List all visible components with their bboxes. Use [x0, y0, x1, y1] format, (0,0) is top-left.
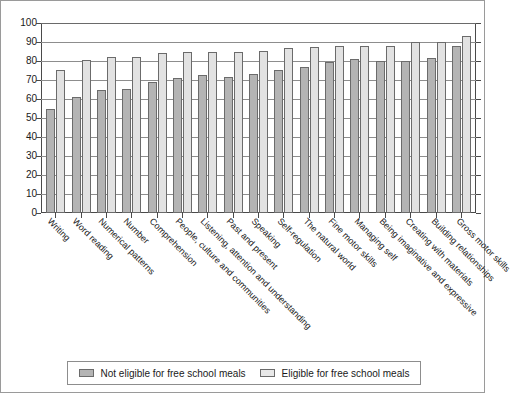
y-tick-right-70 — [476, 80, 481, 81]
bar-eligible[interactable] — [107, 57, 116, 213]
bar-not-eligible[interactable] — [401, 61, 410, 213]
bar-eligible[interactable] — [360, 46, 369, 213]
y-tick-right-10 — [476, 194, 481, 195]
bar-group — [195, 23, 220, 213]
bar-eligible[interactable] — [208, 52, 217, 214]
bar-not-eligible[interactable] — [427, 58, 436, 213]
y-axis-tick-label: 20 — [3, 170, 37, 180]
y-axis-tick-label: 40 — [3, 132, 37, 142]
bar-eligible[interactable] — [56, 70, 65, 213]
legend-label: Eligible for free school meals — [282, 368, 410, 379]
y-tick-right-80 — [476, 61, 481, 62]
bar-group — [322, 23, 347, 213]
y-tick-right-0 — [476, 213, 481, 214]
bar-eligible[interactable] — [386, 46, 395, 213]
bar-eligible[interactable] — [158, 53, 167, 213]
bar-eligible[interactable] — [310, 47, 319, 213]
x-axis-labels: WritingWord readingNumerical patternsNum… — [41, 214, 476, 334]
bar-group — [246, 23, 271, 213]
bar-group — [43, 23, 68, 213]
bar-group — [398, 23, 423, 213]
bar-not-eligible[interactable] — [376, 61, 385, 213]
bar-eligible[interactable] — [437, 42, 446, 213]
bar-not-eligible[interactable] — [173, 78, 182, 213]
bar-not-eligible[interactable] — [274, 70, 283, 213]
y-axis-tick-label: 10 — [3, 189, 37, 199]
chart-frame: 0102030405060708090100 WritingWord readi… — [0, 0, 485, 393]
bar-not-eligible[interactable] — [72, 97, 81, 213]
bar-eligible[interactable] — [132, 57, 141, 213]
bar-not-eligible[interactable] — [122, 89, 131, 213]
y-tick-right-20 — [476, 175, 481, 176]
y-axis-labels: 0102030405060708090100 — [1, 23, 37, 213]
y-axis-tick-label: 70 — [3, 75, 37, 85]
legend-item[interactable]: Not eligible for free school meals — [79, 368, 246, 379]
bar-eligible[interactable] — [259, 51, 268, 213]
bar-not-eligible[interactable] — [249, 74, 258, 213]
bar-not-eligible[interactable] — [325, 62, 334, 213]
y-tick-right-40 — [476, 137, 481, 138]
bar-eligible[interactable] — [462, 36, 471, 213]
bar-not-eligible[interactable] — [300, 67, 309, 213]
y-tick-right-90 — [476, 42, 481, 43]
y-tick-right-50 — [476, 118, 481, 119]
y-tick-right-100 — [476, 23, 481, 24]
legend-label: Not eligible for free school meals — [101, 368, 246, 379]
bar-group — [449, 23, 474, 213]
bar-not-eligible[interactable] — [46, 109, 55, 214]
chart-legend: Not eligible for free school mealsEligib… — [67, 361, 421, 385]
bar-not-eligible[interactable] — [198, 75, 207, 213]
bar-group — [373, 23, 398, 213]
y-axis-tick-label: 60 — [3, 94, 37, 104]
bar-not-eligible[interactable] — [148, 82, 157, 213]
bar-group — [119, 23, 144, 213]
y-axis-tick-label: 0 — [3, 208, 37, 218]
y-axis-tick-label: 80 — [3, 56, 37, 66]
bar-not-eligible[interactable] — [97, 90, 106, 213]
y-tick-right-30 — [476, 156, 481, 157]
legend-swatch-dark — [79, 369, 94, 377]
bar-group — [423, 23, 448, 213]
bar-eligible[interactable] — [234, 52, 243, 214]
bar-not-eligible[interactable] — [224, 77, 233, 213]
bar-group — [221, 23, 246, 213]
y-tick-right-60 — [476, 99, 481, 100]
bar-group — [347, 23, 372, 213]
bar-group — [68, 23, 93, 213]
x-axis-category-label: Writing — [45, 216, 72, 243]
y-axis-tick-label: 90 — [3, 37, 37, 47]
bar-group — [144, 23, 169, 213]
bar-not-eligible[interactable] — [452, 46, 461, 213]
bar-eligible[interactable] — [82, 60, 91, 213]
bar-eligible[interactable] — [183, 52, 192, 214]
y-axis-tick-label: 100 — [3, 18, 37, 28]
legend-item[interactable]: Eligible for free school meals — [260, 368, 410, 379]
plot-area — [41, 23, 476, 213]
bar-group — [94, 23, 119, 213]
bar-eligible[interactable] — [284, 48, 293, 213]
bar-eligible[interactable] — [411, 42, 420, 213]
bar-not-eligible[interactable] — [350, 59, 359, 213]
bar-group — [271, 23, 296, 213]
bar-group — [170, 23, 195, 213]
bar-eligible[interactable] — [335, 46, 344, 213]
y-axis-tick-label: 50 — [3, 113, 37, 123]
bar-group — [297, 23, 322, 213]
bar-series-container — [41, 23, 476, 213]
y-axis-tick-label: 30 — [3, 151, 37, 161]
legend-swatch-light — [260, 369, 275, 377]
